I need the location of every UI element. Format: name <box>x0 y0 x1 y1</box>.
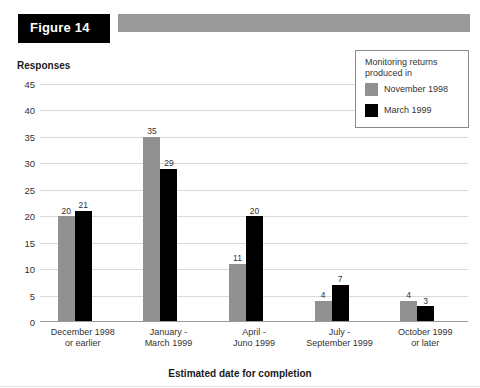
category-label-line: July - <box>329 327 351 337</box>
figure-number-box: Figure 14 <box>18 14 110 43</box>
bar: 35 <box>143 137 160 322</box>
legend-swatch-march-1999 <box>365 104 378 117</box>
legend-swatch-november-1998 <box>365 83 378 96</box>
bar-value-label: 21 <box>79 201 88 210</box>
bottom-divider <box>0 386 480 387</box>
bar-group: 47 <box>315 84 349 322</box>
y-axis-tick-label: 35 <box>24 131 35 142</box>
bar: 4 <box>315 301 332 322</box>
bar-value-label: 20 <box>62 207 71 216</box>
figure-number-label: Figure 14 <box>30 20 90 35</box>
bar: 20 <box>246 216 263 322</box>
category-label-line: October 1999 <box>398 327 453 337</box>
category-label-line: April - <box>242 327 266 337</box>
y-axis-tick-label: 0 <box>30 317 35 328</box>
legend-label-november-1998: November 1998 <box>384 84 448 94</box>
bar-value-label: 4 <box>406 291 411 300</box>
category-label-line: January - <box>150 327 188 337</box>
legend-title-line-1: Monitoring returns <box>365 57 438 67</box>
bar: 7 <box>332 285 349 322</box>
bar-value-label: 3 <box>423 297 428 306</box>
y-axis-tick-label: 5 <box>30 290 35 301</box>
y-axis-tick-label: 45 <box>24 79 35 90</box>
bar-group: 1120 <box>229 84 263 322</box>
x-axis-category-label: October 1999or later <box>373 327 477 349</box>
category-label-line: September 1999 <box>306 338 373 348</box>
bar-group: 3529 <box>143 84 177 322</box>
figure-banner-bar <box>118 14 470 32</box>
bar-value-label: 35 <box>147 127 156 136</box>
y-axis-tick-label: 40 <box>24 105 35 116</box>
legend-title: Monitoring returns produced in <box>365 57 465 79</box>
category-label-line: Juno 1999 <box>233 338 275 348</box>
y-axis-tick-label: 10 <box>24 264 35 275</box>
y-axis-tick-label: 25 <box>24 184 35 195</box>
category-label-line: or later <box>411 338 439 348</box>
x-axis-line <box>40 321 468 322</box>
category-label-line: or earlier <box>65 338 101 348</box>
bar: 4 <box>400 301 417 322</box>
bar: 21 <box>75 211 92 322</box>
bar-value-label: 4 <box>321 291 326 300</box>
bar: 29 <box>160 169 177 322</box>
category-label-line: December 1998 <box>51 327 115 337</box>
bar-group: 2021 <box>58 84 92 322</box>
bar: 20 <box>58 216 75 322</box>
y-axis-tick-label: 15 <box>24 237 35 248</box>
bar-value-label: 20 <box>250 207 259 216</box>
category-label-line: March 1999 <box>145 338 193 348</box>
bar-value-label: 29 <box>164 159 173 168</box>
bar-value-label: 11 <box>233 254 242 263</box>
chart-legend: Monitoring returns produced in November … <box>355 50 469 128</box>
bar: 3 <box>417 306 434 322</box>
y-axis-title: Responses <box>17 60 70 71</box>
y-axis-tick-label: 30 <box>24 158 35 169</box>
x-axis-title: Estimated date for completion <box>0 368 480 379</box>
legend-title-line-2: produced in <box>365 68 412 78</box>
bar-value-label: 7 <box>338 275 343 284</box>
bar: 11 <box>229 264 246 322</box>
y-axis-tick-label: 20 <box>24 211 35 222</box>
legend-label-march-1999: March 1999 <box>384 105 432 115</box>
